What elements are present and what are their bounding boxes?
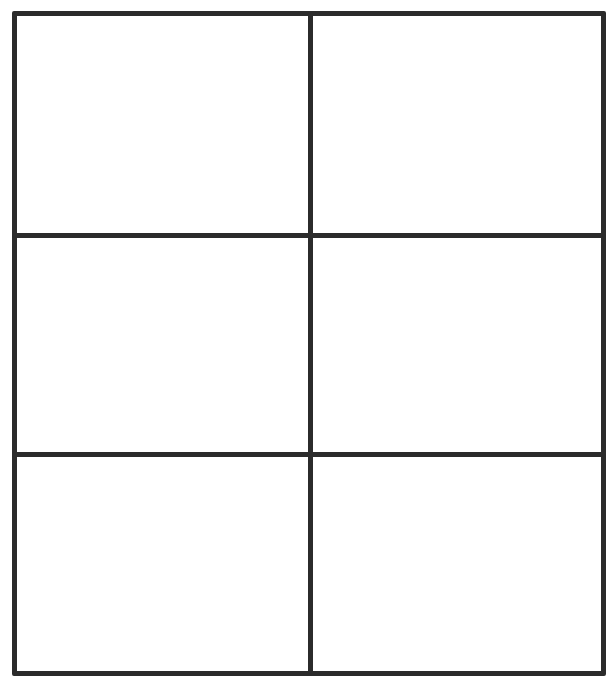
empty-grid-diagram — [12, 11, 606, 676]
grid-cell-r3-c1 — [17, 457, 308, 671]
grid-cell-r1-c1 — [17, 16, 308, 233]
grid-cell-r2-c2 — [313, 238, 601, 452]
grid-cell-r2-c1 — [17, 238, 308, 452]
grid-cell-r1-c2 — [313, 16, 601, 233]
grid-cell-r3-c2 — [313, 457, 601, 671]
